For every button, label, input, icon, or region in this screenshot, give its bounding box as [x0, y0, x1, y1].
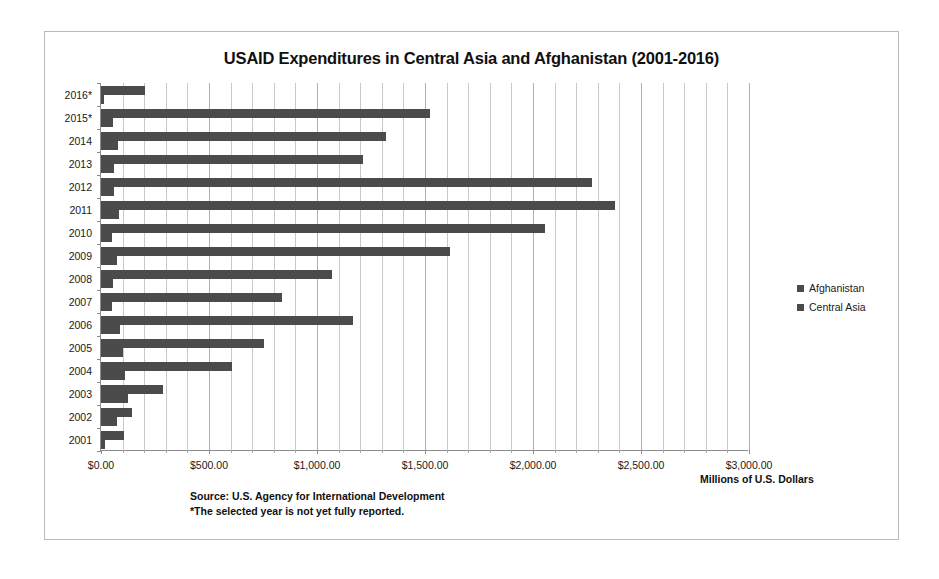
bar-afghanistan: [101, 339, 264, 348]
bar-central-asia: [101, 164, 114, 173]
y-axis-tick: [97, 83, 101, 84]
bar-row: [101, 201, 748, 219]
bar-central-asia: [101, 256, 117, 265]
legend-item[interactable]: Central Asia: [797, 298, 893, 317]
x-axis-unit-label: Millions of U.S. Dollars: [700, 473, 814, 485]
bar-row: [101, 362, 748, 380]
y-axis-tick-label: 2003: [32, 389, 92, 399]
bar-row: [101, 293, 748, 311]
x-axis-tick: [382, 450, 383, 453]
bar-row: [101, 109, 748, 127]
y-axis-tick-label: 2006: [32, 320, 92, 330]
bar-afghanistan: [101, 431, 124, 440]
y-axis-tick: [97, 129, 101, 130]
y-axis-tick-label: 2009: [32, 251, 92, 261]
y-axis-tick-label: 2005: [32, 343, 92, 353]
y-axis-tick-label: 2002: [32, 412, 92, 422]
bar-row: [101, 408, 748, 426]
bar-central-asia: [101, 210, 119, 219]
y-axis-tick: [97, 244, 101, 245]
x-axis-tick: [339, 450, 340, 453]
legend-swatch-icon: [797, 304, 804, 311]
x-axis-tick: [641, 450, 642, 454]
bar-central-asia: [101, 440, 105, 449]
bar-central-asia: [101, 279, 113, 288]
x-axis-tick: [511, 450, 512, 453]
y-axis-tick: [97, 290, 101, 291]
x-axis-tick: [447, 450, 448, 453]
bar-central-asia: [101, 348, 123, 357]
bar-row: [101, 224, 748, 242]
y-axis-tick-label: 2016*: [32, 90, 92, 100]
x-axis-tick: [166, 450, 167, 453]
x-axis-tick: [598, 450, 599, 453]
x-axis-tick-label: $0.00: [88, 459, 114, 471]
x-axis-tick: [252, 450, 253, 453]
x-axis-tick: [187, 450, 188, 453]
bar-afghanistan: [101, 224, 545, 233]
chart-title: USAID Expenditures in Central Asia and A…: [45, 49, 898, 68]
y-axis-tick-label: 2004: [32, 366, 92, 376]
bar-central-asia: [101, 233, 112, 242]
source-line: Source: U.S. Agency for International De…: [190, 489, 445, 504]
bar-afghanistan: [101, 316, 353, 325]
x-axis-tick: [317, 450, 318, 454]
chart-frame: USAID Expenditures in Central Asia and A…: [44, 31, 899, 540]
bar-afghanistan: [101, 408, 132, 417]
bar-afghanistan: [101, 109, 430, 118]
x-axis-tick-label: $3,000.00: [726, 459, 773, 471]
bar-afghanistan: [101, 385, 163, 394]
x-axis-tick: [555, 450, 556, 453]
legend-label: Central Asia: [809, 298, 866, 317]
bar-afghanistan: [101, 247, 450, 256]
plot-area: 2016*2015*201420132012201120102009200820…: [100, 83, 748, 451]
gridline: [749, 83, 750, 450]
x-axis-tick: [663, 450, 664, 453]
bar-afghanistan: [101, 155, 363, 164]
bar-row: [101, 385, 748, 403]
y-axis-tick-label: 2013: [32, 159, 92, 169]
bar-central-asia: [101, 187, 114, 196]
bar-central-asia: [101, 417, 117, 426]
x-axis-tick: [425, 450, 426, 454]
x-axis-tick: [706, 450, 707, 453]
bar-row: [101, 431, 748, 449]
y-axis-tick: [97, 152, 101, 153]
bar-afghanistan: [101, 86, 145, 95]
bar-central-asia: [101, 371, 125, 380]
x-axis-tick: [209, 450, 210, 454]
x-axis-tick-label: $2,000.00: [510, 459, 557, 471]
bar-row: [101, 339, 748, 357]
y-axis-tick: [97, 382, 101, 383]
x-axis-tick: [360, 450, 361, 453]
x-axis-tick-label: $1,000.00: [294, 459, 341, 471]
bar-row: [101, 178, 748, 196]
y-axis-tick: [97, 221, 101, 222]
y-axis-tick: [97, 336, 101, 337]
y-axis-tick-label: 2012: [32, 182, 92, 192]
bar-afghanistan: [101, 293, 282, 302]
y-axis-tick: [97, 428, 101, 429]
y-axis-tick-label: 2015*: [32, 113, 92, 123]
bar-row: [101, 155, 748, 173]
x-axis-tick: [684, 450, 685, 453]
x-axis-tick: [576, 450, 577, 453]
x-axis-tick: [295, 450, 296, 453]
x-axis-tick: [727, 450, 728, 453]
bar-central-asia: [101, 394, 128, 403]
legend-item[interactable]: Afghanistan: [797, 279, 893, 298]
x-axis-tick-label: $1,500.00: [402, 459, 449, 471]
y-axis-tick: [97, 198, 101, 199]
x-axis-tick: [231, 450, 232, 453]
y-axis-tick: [97, 359, 101, 360]
y-axis-tick-label: 2007: [32, 297, 92, 307]
y-axis-tick-label: 2008: [32, 274, 92, 284]
bar-central-asia: [101, 302, 112, 311]
y-axis-tick-label: 2001: [32, 435, 92, 445]
bar-afghanistan: [101, 178, 592, 187]
legend-swatch-icon: [797, 285, 804, 292]
legend-label: Afghanistan: [809, 279, 864, 298]
y-axis-tick-label: 2011: [32, 205, 92, 215]
bar-row: [101, 270, 748, 288]
bar-afghanistan: [101, 201, 615, 210]
